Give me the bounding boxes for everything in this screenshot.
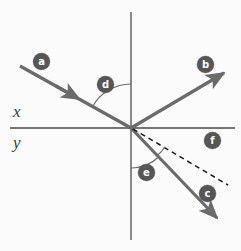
y-axis-label: y [13,134,21,151]
ray-b-line [131,73,224,128]
x-axis-label: x [13,103,21,120]
badge-c[interactable]: c [199,185,216,202]
ray-diagram-figure: x y a b c d e f [0,0,241,251]
badge-b[interactable]: b [197,56,214,73]
badge-f[interactable]: f [204,132,221,149]
badge-d[interactable]: d [97,76,114,93]
badge-a[interactable]: a [33,53,50,70]
diagram-canvas [0,0,241,251]
ray-a-arrowhead [56,86,72,95]
angle-arc-f [157,147,165,156]
ray-a-line [20,66,131,128]
badge-e[interactable]: e [138,164,155,181]
